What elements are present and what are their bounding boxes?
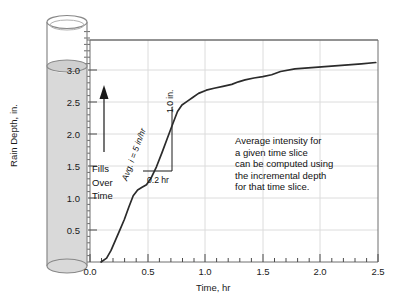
y-tick-label-1.0: 1.0 [54, 193, 80, 204]
fills-over-time-arrow [100, 85, 109, 152]
explanation-note-line-2: a given time slice [235, 147, 333, 159]
explanation-note-line-4: the incremental depth [235, 170, 333, 182]
y-axis-ticks [88, 70, 97, 230]
rain-gauge-chart-figure: Rain Depth, in. Time, hr 0.5 1.0 1.5 2.0… [0, 0, 408, 307]
explanation-note: Average intensity for a given time slice… [235, 135, 333, 193]
x-axis-label: Time, hr [196, 282, 230, 293]
x-tick-label-2.0: 2.0 [307, 266, 333, 277]
y-tick-label-2.5: 2.5 [54, 97, 80, 108]
chart-canvas [0, 0, 408, 307]
fills-over-time-line-3: Time [92, 189, 113, 203]
y-tick-label-0.5: 0.5 [54, 225, 80, 236]
arrow-head-icon [100, 85, 109, 99]
y-tick-label-1.5: 1.5 [54, 161, 80, 172]
y-tick-label-2.0: 2.0 [54, 129, 80, 140]
fills-over-time-line-1: Fills [92, 162, 113, 176]
slope-vertical-label: 1.0 in. [165, 67, 175, 113]
explanation-note-line-3: can be computed using [235, 158, 333, 170]
x-axis-ticks [90, 254, 378, 262]
x-tick-label-0.5: 0.5 [135, 266, 161, 277]
slope-horizontal-label: 0.2 hr [147, 175, 169, 185]
x-tick-label-2.5: 2.5 [365, 266, 391, 277]
y-axis-label: Rain Depth, in. [8, 91, 19, 181]
fills-over-time-annotation: Fills Over Time [92, 162, 113, 203]
x-tick-label-1.0: 1.0 [192, 266, 218, 277]
x-tick-label-0.0: 0.0 [77, 266, 103, 277]
x-tick-label-1.5: 1.5 [250, 266, 276, 277]
y-tick-label-3.0: 3.0 [54, 65, 80, 76]
plot-frame [84, 40, 378, 262]
explanation-note-line-1: Average intensity for [235, 135, 333, 147]
explanation-note-line-5: for that time slice. [235, 181, 333, 193]
fills-over-time-line-2: Over [92, 176, 113, 190]
